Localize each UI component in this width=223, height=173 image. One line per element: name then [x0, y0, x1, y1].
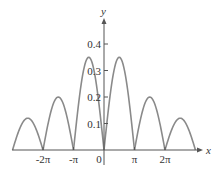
x-axis-arrow-icon: [197, 148, 203, 153]
y-tick-label: 0.2: [87, 91, 101, 103]
curve-arch: [104, 57, 134, 150]
y-tick-label: 0.1: [87, 118, 101, 130]
y-axis-label: y: [100, 5, 106, 17]
curve-arch: [13, 118, 43, 150]
curve-arch: [134, 97, 164, 150]
x-tick-label: π: [132, 153, 138, 165]
y-tick-label: 0.3: [87, 65, 101, 77]
x-axis-label: x: [205, 144, 211, 156]
chart: x y -2π-π0π2π 0.10.20.30.4: [0, 0, 223, 173]
curve-arch: [165, 118, 195, 150]
x-tick-label: 0: [96, 153, 102, 165]
x-tick-label: 2π: [159, 153, 171, 165]
x-tick-label: -π: [69, 153, 79, 165]
y-tick-label: 0.4: [87, 38, 101, 50]
y-axis-arrow-icon: [102, 18, 107, 24]
y-ticks: 0.10.20.30.4: [87, 38, 108, 130]
curve-arch: [43, 97, 73, 150]
x-tick-label: -2π: [36, 153, 51, 165]
